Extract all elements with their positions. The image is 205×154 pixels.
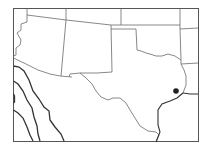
map-canvas <box>0 0 205 154</box>
location-marker[interactable] <box>173 88 179 94</box>
map-frame <box>14 9 199 142</box>
